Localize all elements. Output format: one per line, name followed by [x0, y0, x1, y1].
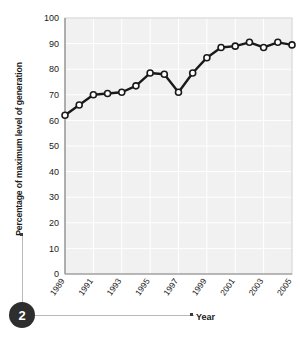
- y-tick-label: 20: [49, 218, 59, 228]
- y-tick-label: 60: [49, 116, 59, 126]
- data-point-marker: [289, 42, 295, 48]
- line-chart: 1009080706050403020100198919911993199519…: [0, 0, 300, 300]
- data-point-marker: [246, 39, 252, 45]
- annotation-leader-horizontal: [22, 315, 194, 316]
- x-tick-label: 2001: [218, 276, 237, 297]
- x-tick-label: 2005: [275, 276, 294, 297]
- x-tick-label: 1989: [48, 276, 67, 297]
- data-point-marker: [105, 91, 111, 97]
- annotation-leader-dot-right: [190, 313, 193, 316]
- data-point-marker: [261, 44, 267, 50]
- data-point-marker: [62, 112, 68, 118]
- y-tick-label: 90: [49, 39, 59, 49]
- y-tick-label: 30: [49, 192, 59, 202]
- data-point-marker: [204, 55, 210, 61]
- data-point-marker: [161, 71, 167, 77]
- data-point-marker: [119, 89, 125, 95]
- data-point-marker: [218, 44, 224, 50]
- data-point-marker: [232, 43, 238, 49]
- annotation-leader-dot-top: [20, 233, 23, 236]
- chart-figure: Percentage of maximum level of generatio…: [0, 0, 300, 337]
- data-point-marker: [275, 39, 281, 45]
- plot-area: 1009080706050403020100198919911993199519…: [0, 0, 300, 300]
- x-tick-label: 1993: [105, 276, 124, 297]
- y-tick-label: 10: [49, 244, 59, 254]
- y-tick-label: 50: [49, 141, 59, 151]
- x-tick-label: 1999: [190, 276, 209, 297]
- y-tick-label: 80: [49, 64, 59, 74]
- x-tick-label: 1997: [161, 276, 180, 297]
- y-tick-label: 70: [49, 90, 59, 100]
- y-tick-label: 100: [44, 13, 59, 23]
- data-point-marker: [90, 92, 96, 98]
- data-point-marker: [176, 89, 182, 95]
- x-tick-label: 2003: [246, 276, 265, 297]
- annotation-badge-2: 2: [9, 302, 35, 328]
- data-point-marker: [190, 70, 196, 76]
- annotation-leader-vertical: [22, 236, 23, 308]
- y-tick-label: 40: [49, 167, 59, 177]
- data-point-marker: [147, 70, 153, 76]
- x-tick-label: 1995: [133, 276, 152, 297]
- data-point-marker: [76, 102, 82, 108]
- x-tick-label: 1991: [76, 276, 95, 297]
- data-point-marker: [133, 83, 139, 89]
- x-axis-title: Year: [196, 312, 215, 322]
